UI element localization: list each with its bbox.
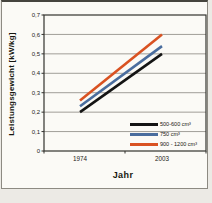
legend-label: 500-600 cm³ xyxy=(160,121,191,128)
series-line xyxy=(80,54,162,112)
y-tick-label: 0,4 xyxy=(32,70,41,76)
legend-item: 500-600 cm³ xyxy=(130,119,197,129)
legend-line-swatch xyxy=(130,123,158,126)
y-tick-label: 0,7 xyxy=(32,12,41,18)
y-tick-label: 0,5 xyxy=(32,51,41,57)
x-axis-title: Jahr xyxy=(78,170,168,180)
series-line xyxy=(80,34,162,100)
legend-line-swatch xyxy=(130,143,158,146)
legend-label: 900 - 1200 cm³ xyxy=(160,141,197,148)
y-tick-label: 0,2 xyxy=(32,109,41,115)
series-line xyxy=(80,46,162,106)
chart-legend: 500-600 cm³750 cm³900 - 1200 cm³ xyxy=(130,119,197,149)
legend-label: 750 cm³ xyxy=(160,131,180,138)
y-tick-label: 0 xyxy=(37,148,41,154)
figure-page: Leistungsgewicht [kW/kg] 00,10,20,30,40,… xyxy=(0,0,212,203)
legend-item: 750 cm³ xyxy=(130,129,197,139)
x-tick-label: 1974 xyxy=(73,155,88,162)
y-tick-label: 0,6 xyxy=(32,32,41,38)
legend-item: 900 - 1200 cm³ xyxy=(130,139,197,149)
legend-line-swatch xyxy=(130,133,158,136)
y-tick-label: 0,1 xyxy=(32,129,41,135)
x-tick-label: 2003 xyxy=(155,155,170,162)
y-tick-label: 0,3 xyxy=(32,90,41,96)
figure-frame: Leistungsgewicht [kW/kg] 00,10,20,30,40,… xyxy=(1,0,208,189)
line-chart: 00,10,20,30,40,50,60,719742003 xyxy=(2,2,209,189)
